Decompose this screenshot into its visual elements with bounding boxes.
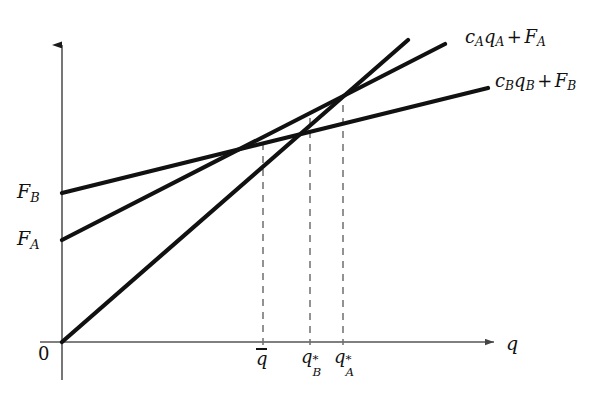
- curve-label-b: cBqB+FB: [495, 72, 576, 93]
- cb-q-sub: B: [526, 79, 535, 93]
- ca-c: c: [465, 26, 475, 47]
- ca-q: q: [484, 26, 496, 47]
- qsa-star: *: [346, 354, 352, 366]
- qsa-sub: A: [346, 367, 355, 379]
- cb-q: q: [514, 70, 526, 91]
- origin-label: 0: [38, 345, 49, 363]
- cb-c-sub: B: [505, 79, 514, 93]
- fa-main: F: [17, 227, 30, 249]
- fb-subscript: B: [30, 190, 39, 205]
- curve-label-a: cAqA+FA: [465, 28, 546, 49]
- ca-f-sub: A: [537, 35, 546, 49]
- cb-f-sub: B: [567, 79, 576, 93]
- cb-c: c: [495, 70, 505, 91]
- q-star-a-glyph: q*A: [334, 348, 356, 366]
- qsa-main: q: [334, 346, 346, 367]
- x-axis-label: q: [506, 334, 518, 353]
- ca-c-sub: A: [475, 35, 484, 49]
- tick-label-q-bar: q: [256, 348, 268, 368]
- ca-plus: +: [504, 26, 524, 47]
- qsb-star: *: [313, 354, 319, 366]
- q-star-b-glyph: q*B: [301, 348, 323, 366]
- ca-f: F: [524, 26, 537, 47]
- tick-label-q-star-b: q*B: [301, 348, 323, 366]
- qsb-main: q: [301, 346, 313, 367]
- q-bar-glyph: q: [256, 348, 268, 368]
- intercept-label-fb: FB: [17, 182, 40, 205]
- intercept-label-fa: FA: [17, 229, 40, 252]
- cb-f: F: [555, 70, 568, 91]
- cb-plus: +: [535, 70, 555, 91]
- ca-q-sub: A: [495, 35, 504, 49]
- cost-comparison-figure: q 0 FB FA cAqA+FA cBqB+FB q q*B q*A: [0, 0, 612, 407]
- fb-main: F: [17, 180, 30, 202]
- qsb-sub: B: [313, 367, 322, 379]
- tick-label-q-star-a: q*A: [334, 348, 356, 366]
- fa-subscript: A: [30, 237, 39, 252]
